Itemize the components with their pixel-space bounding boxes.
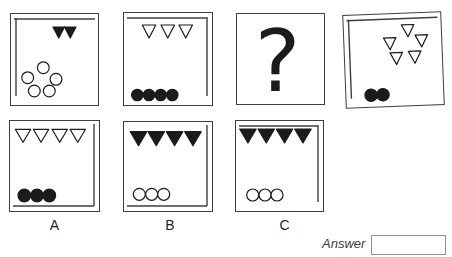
puzzle-cell-question: ?: [236, 13, 325, 105]
option-box-c: [235, 120, 324, 212]
question-mark: ?: [255, 14, 301, 104]
option-label-c: C: [240, 218, 329, 232]
outline-triangle-down: [52, 129, 68, 142]
filled-triangle-down: [166, 132, 183, 146]
cell-question-canvas: ?: [237, 14, 324, 104]
outline-triangle-down: [401, 24, 414, 36]
filled-triangle-down: [53, 27, 65, 38]
inner-border-line: [346, 17, 437, 20]
outline-triangle-down: [15, 129, 30, 142]
cell-2-canvas: [124, 13, 212, 105]
outline-circle: [37, 62, 49, 74]
puzzle-cell-3: [342, 11, 445, 109]
filled-triangle-down: [258, 129, 275, 143]
option-box-a: [9, 120, 100, 212]
outline-circle: [271, 189, 283, 201]
filled-circle: [155, 89, 166, 100]
outline-circle: [259, 189, 271, 201]
filled-circle: [31, 189, 44, 202]
inner-border-line: [348, 20, 351, 99]
cell-3-canvas: [343, 12, 443, 108]
outline-triangle-down: [383, 38, 396, 50]
filled-triangle-down: [148, 132, 165, 146]
worksheet: ? A B C Answer: [0, 0, 452, 258]
filled-triangle-down: [240, 129, 257, 143]
filled-circle: [143, 89, 154, 100]
outline-triangle-down: [70, 129, 86, 142]
outline-circle: [146, 188, 158, 200]
filled-circle: [365, 89, 378, 102]
filled-circle: [167, 89, 178, 100]
answer-label: Answer: [322, 237, 365, 250]
outline-circle: [22, 72, 34, 84]
filled-triangle-down: [276, 129, 293, 143]
filled-circle: [18, 189, 31, 202]
cell-1-canvas: [11, 14, 98, 105]
outline-circle: [133, 188, 145, 200]
filled-triangle-down: [185, 132, 202, 146]
filled-circle: [43, 189, 56, 202]
outline-circle: [158, 188, 170, 200]
outline-triangle-down: [179, 25, 193, 38]
filled-circle: [132, 89, 143, 100]
answer-input[interactable]: [371, 235, 446, 255]
outline-circle: [43, 85, 55, 97]
option-label-b: B: [125, 218, 215, 232]
filled-triangle-down: [65, 27, 77, 38]
outline-triangle-down: [408, 51, 421, 63]
outline-circle: [50, 73, 62, 85]
option-a-canvas: [10, 121, 99, 211]
filled-circle: [377, 88, 390, 101]
filled-triangle-down: [130, 132, 147, 146]
outline-circle: [28, 85, 40, 97]
outline-triangle-down: [415, 35, 428, 47]
option-b-canvas: [124, 122, 212, 211]
filled-triangle-down: [295, 129, 312, 143]
puzzle-cell-1: [10, 13, 99, 106]
option-box-b: [123, 121, 213, 212]
option-c-canvas: [236, 121, 323, 211]
outline-triangle-down: [390, 52, 403, 64]
puzzle-cell-2: [123, 12, 213, 106]
option-label-a: A: [9, 218, 100, 232]
outline-circle: [247, 189, 259, 201]
outline-triangle-down: [142, 25, 156, 38]
outline-triangle-down: [161, 25, 175, 38]
outline-triangle-down: [33, 129, 49, 142]
